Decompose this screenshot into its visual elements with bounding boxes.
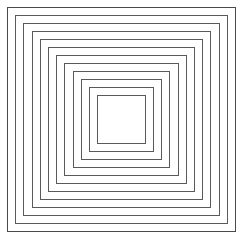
square-ring-12	[97, 95, 146, 144]
squares-layer	[0, 0, 243, 240]
concentric-squares-figure: Concentric Squares	[0, 0, 243, 240]
